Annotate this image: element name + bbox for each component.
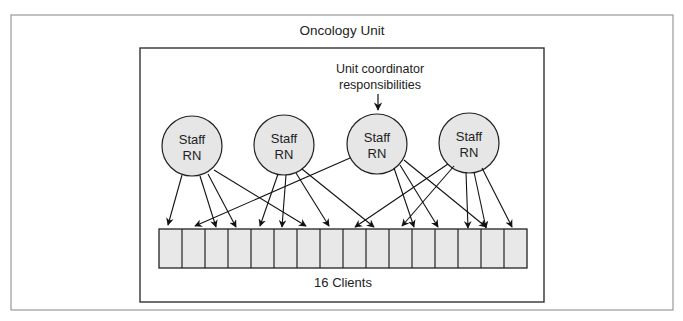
svg-text:RN: RN: [275, 147, 294, 162]
svg-text:Staff: Staff: [179, 132, 206, 147]
svg-text:RN: RN: [183, 148, 202, 163]
svg-text:Staff: Staff: [364, 130, 391, 145]
clients-label: 16 Clients: [314, 275, 372, 290]
staff-node-1: Staff RN: [162, 116, 222, 176]
svg-text:Staff: Staff: [271, 131, 298, 146]
unit-title: Oncology Unit: [300, 23, 385, 38]
staff-node-3: Staff RN: [347, 114, 407, 174]
svg-text:Staff: Staff: [456, 129, 483, 144]
annotation-line2: responsibilities: [339, 78, 421, 92]
client-bar: [159, 229, 527, 268]
staffing-diagram: Oncology Unit Unit coordinator responsib…: [0, 0, 683, 321]
svg-text:RN: RN: [368, 146, 387, 161]
annotation-line1: Unit coordinator: [336, 62, 424, 76]
svg-text:RN: RN: [460, 145, 479, 160]
staff-node-2: Staff RN: [254, 115, 314, 175]
